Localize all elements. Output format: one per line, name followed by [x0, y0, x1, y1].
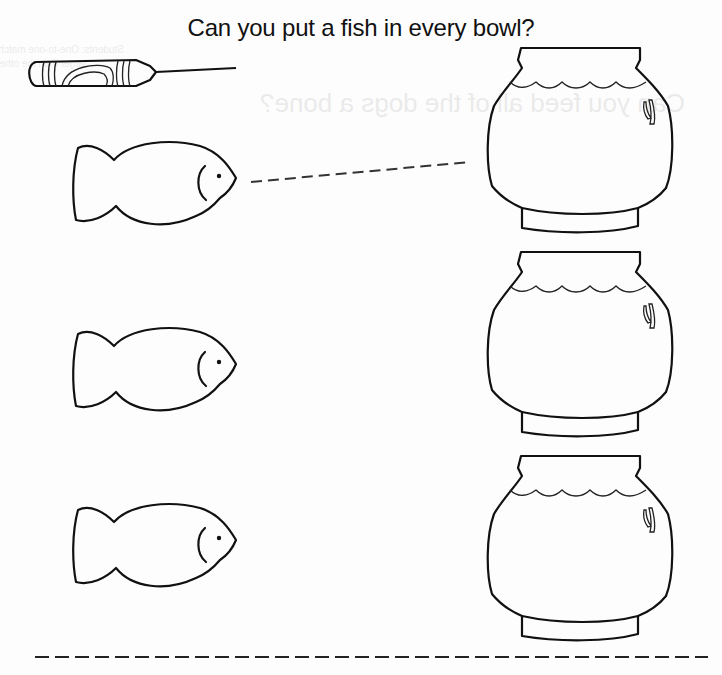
fishbowl-1: [488, 48, 673, 232]
fish-1: [73, 142, 236, 224]
fish-2: [73, 328, 236, 410]
fish-3: [73, 504, 236, 586]
crayon-icon: [29, 60, 236, 86]
dashed-trace-line[interactable]: [251, 162, 470, 182]
fishbowl-2: [488, 252, 673, 436]
fishbowl-3: [488, 456, 673, 640]
worksheet-page: Students: One-to-one match... larger tha…: [0, 0, 722, 675]
